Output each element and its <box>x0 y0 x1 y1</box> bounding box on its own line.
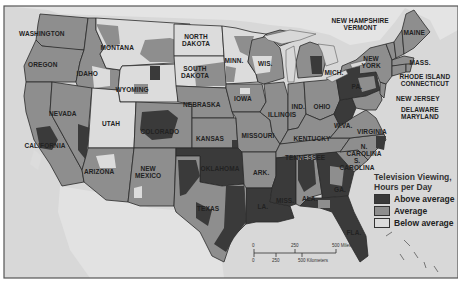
state-label-kentucky: KENTUCKY <box>294 135 331 142</box>
state-label-maine: MAINE <box>404 29 425 36</box>
state-label-kansas: KANSAS <box>196 135 224 142</box>
state-label-pa: PA. <box>352 83 363 90</box>
state-label-w-va: W.VA. <box>334 122 352 129</box>
state-label-new-hampshire-vermont: NEW HAMPSHIRE VERMONT <box>332 17 389 31</box>
state-label-ind: IND. <box>292 103 305 110</box>
state-label-ohio: OHIO <box>314 103 331 110</box>
scale-km-500: 500 Kilometers <box>298 258 328 263</box>
state-label-washington: WASHINGTON <box>19 30 65 37</box>
state-label-texas: TEXAS <box>197 205 219 212</box>
state-label-idaho: IDAHO <box>77 70 98 77</box>
legend-title-line1: Television Viewing, <box>374 172 458 182</box>
state-label-ark: ARK. <box>253 169 269 176</box>
state-label-illinois: ILLINOIS <box>268 111 296 118</box>
scale-mi-0: 0 <box>252 243 255 248</box>
state-label-arizona: ARIZONA <box>84 168 114 175</box>
state-label-montana: MONTANA <box>101 44 134 51</box>
state-label-s-carolina: S. CAROLINA <box>340 157 375 171</box>
state-label-mich: MICH. <box>325 69 344 76</box>
state-label-virginia: VIRGINIA <box>357 128 387 135</box>
state-label-new-york: NEW YORK <box>362 55 381 69</box>
state-label-south-dakota: SOUTH DAKOTA <box>181 65 209 79</box>
state-label-missouri: MISSOURI <box>242 132 275 139</box>
state-label-n-carolina: N. CAROLINA <box>347 143 382 157</box>
swatch-average <box>374 206 390 216</box>
legend-label: Above average <box>394 194 454 204</box>
state-label-utah: UTAH <box>102 120 120 127</box>
state-label-ga: GA. <box>334 186 346 193</box>
scale-mi-500: 500 Miles <box>332 243 351 248</box>
state-label-miss: MISS. <box>276 197 294 204</box>
state-label-la: LA. <box>258 203 269 210</box>
state-label-mass: MASS. <box>410 59 431 66</box>
state-label-north-dakota: NORTH DAKOTA <box>182 33 210 47</box>
scale-km-250: 250 <box>272 258 280 263</box>
swatch-above-average <box>374 194 390 204</box>
state-label-nevada: NEVADA <box>49 110 77 117</box>
state-label-iowa: IOWA <box>234 95 252 102</box>
state-label-rhode-island-connecticut: RHODE ISLAND CONNECTICUT <box>400 73 451 87</box>
swatch-below-average <box>374 218 390 228</box>
state-label-oregon: OREGON <box>28 61 58 68</box>
us-choropleth-map <box>0 0 458 282</box>
scale-bar: 0 250 500 Miles 0 250 500 Kilometers <box>252 243 362 265</box>
state-label-wis: WIS. <box>258 60 272 67</box>
legend-label: Below average <box>394 218 454 228</box>
state-label-wyoming: WYOMING <box>116 86 149 93</box>
scale-km-0: 0 <box>252 258 255 263</box>
state-label-oklahoma: OKLAHOMA <box>201 165 240 172</box>
legend-title-line2: Hours per Day <box>374 182 458 192</box>
legend-item-above-average: Above average <box>374 194 458 204</box>
scale-mi-250: 250 <box>291 243 299 248</box>
state-wyoming <box>118 64 178 102</box>
legend: Television Viewing, Hours per Day Above … <box>374 172 458 228</box>
state-label-nebraska: NEBRASKA <box>183 101 221 108</box>
state-label-tennessee: TENNESSEE <box>285 154 325 161</box>
state-label-delaware-maryland: DELAWARE MARYLAND <box>401 106 439 120</box>
state-label-california: CALIFORNIA <box>25 142 66 149</box>
lake-michigan <box>286 46 296 82</box>
state-label-new-mexico: NEW MEXICO <box>135 165 161 179</box>
state-label-fla: FLA. <box>347 229 362 236</box>
legend-item-average: Average <box>374 206 458 216</box>
state-label-colorado: COLORADO <box>141 128 180 135</box>
state-label-ala: ALA. <box>302 195 318 202</box>
legend-item-below-average: Below average <box>374 218 458 228</box>
legend-label: Average <box>394 206 427 216</box>
state-label-minn: MINN. <box>225 57 244 64</box>
state-label-new-jersey: NEW JERSEY <box>396 95 440 102</box>
state-kansas <box>192 118 238 148</box>
